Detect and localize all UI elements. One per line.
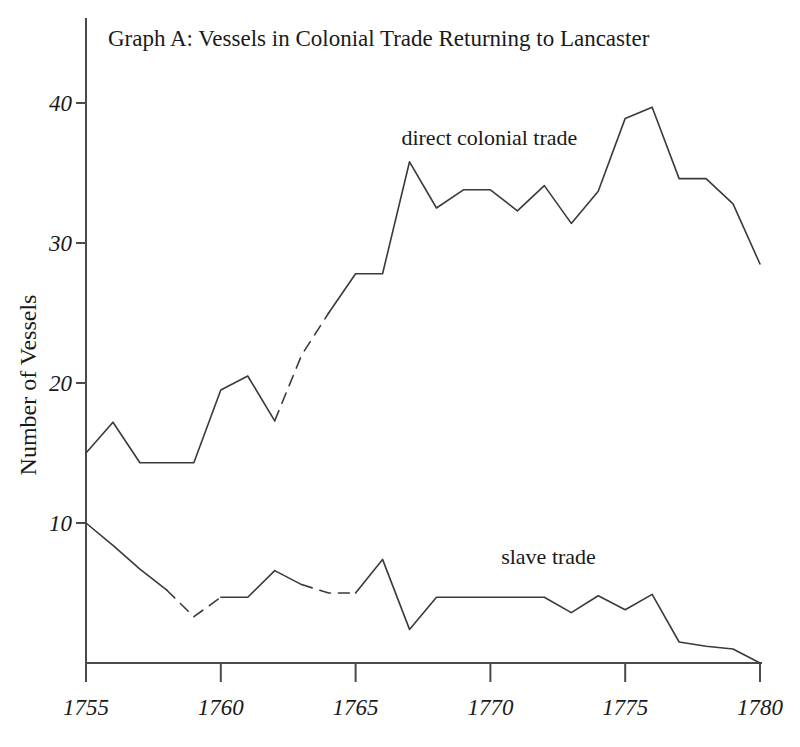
x-tick-label: 1770 xyxy=(467,695,514,720)
series-line-slave-trade xyxy=(302,585,356,593)
y-tick-label: 20 xyxy=(49,371,73,396)
series-line-slave-trade xyxy=(167,590,221,617)
y-axis-title: Number of Vessels xyxy=(15,295,41,476)
series-paths xyxy=(86,107,760,663)
chart-title: Graph A: Vessels in Colonial Trade Retur… xyxy=(108,26,650,51)
series-line-slave-trade xyxy=(356,559,760,663)
y-tick-label: 10 xyxy=(49,511,73,536)
series-labels: direct colonial tradeslave trade xyxy=(401,125,595,569)
chart-figure: Graph A: Vessels in Colonial Trade Retur… xyxy=(0,0,800,747)
series-line-direct-colonial-trade xyxy=(86,376,275,463)
series-line-slave-trade xyxy=(86,523,167,590)
y-tick-label: 40 xyxy=(49,91,73,116)
series-label-slave-trade: slave trade xyxy=(501,544,596,569)
x-tick-label: 1760 xyxy=(198,695,245,720)
x-tick-label: 1755 xyxy=(63,695,109,720)
y-axis-ticks: 10203040 xyxy=(48,91,86,536)
line-chart-svg: Graph A: Vessels in Colonial Trade Retur… xyxy=(0,0,800,747)
series-line-direct-colonial-trade xyxy=(275,313,329,421)
y-tick-label: 30 xyxy=(48,231,73,256)
series-label-direct-colonial-trade: direct colonial trade xyxy=(401,125,577,150)
x-tick-label: 1775 xyxy=(602,695,648,720)
x-axis-ticks: 175517601765177017751780 xyxy=(63,663,784,720)
x-tick-label: 1765 xyxy=(333,695,379,720)
x-tick-label: 1780 xyxy=(737,695,784,720)
series-line-slave-trade xyxy=(221,571,302,598)
